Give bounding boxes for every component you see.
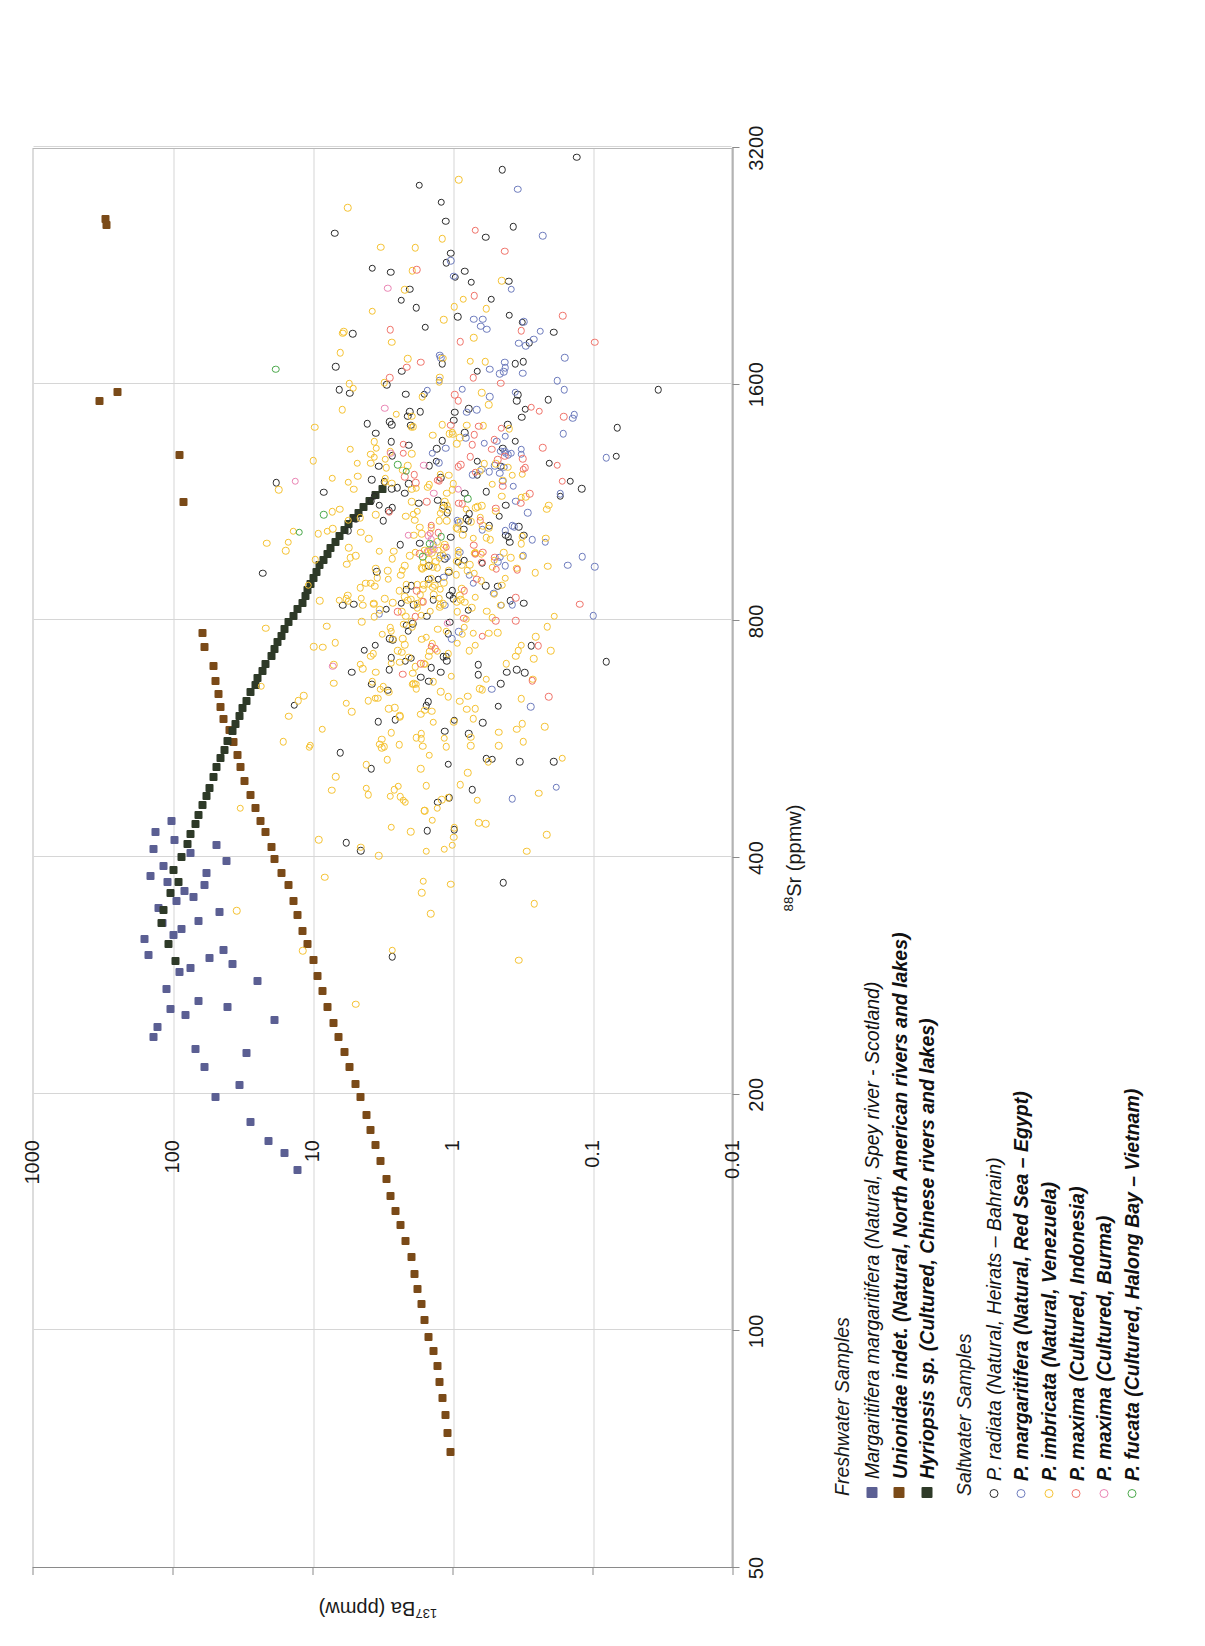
data-point — [517, 327, 525, 335]
data-point — [544, 502, 552, 510]
data-point — [407, 498, 415, 506]
data-point — [549, 329, 557, 337]
data-point — [294, 697, 302, 705]
data-point — [236, 805, 244, 813]
data-point — [403, 355, 411, 363]
data-point — [336, 349, 344, 357]
data-point — [346, 446, 354, 454]
legend-item-label: P. radiata (Natural, Heirats – Bahrain) — [982, 1157, 1005, 1481]
filled-square-marker-icon — [866, 1487, 877, 1498]
data-point — [416, 408, 424, 416]
legend-item[interactable]: Unionidae indet. (Natural, North America… — [888, 148, 911, 1498]
data-point — [140, 935, 148, 943]
data-point — [509, 483, 517, 491]
data-point — [356, 514, 364, 522]
data-point — [417, 660, 425, 668]
data-point — [339, 328, 347, 336]
data-point — [450, 391, 458, 399]
data-point — [512, 594, 520, 602]
data-point — [198, 801, 206, 809]
data-point — [417, 889, 425, 897]
data-point — [170, 836, 178, 844]
data-point — [232, 907, 240, 915]
data-point — [440, 846, 448, 854]
data-point — [388, 599, 396, 607]
legend-item[interactable]: P. maxima (Cultured, Burma) — [1092, 148, 1115, 1498]
legend-item[interactable]: P. imbricata (Natural, Venezuela) — [1037, 148, 1060, 1498]
x-axis-tick-label: 400 — [744, 841, 767, 875]
data-point — [358, 665, 366, 673]
data-point — [530, 335, 538, 343]
data-point — [144, 951, 152, 959]
data-point — [442, 543, 450, 551]
data-point — [174, 878, 182, 886]
data-point — [175, 451, 183, 459]
x-axis-tick — [732, 147, 739, 148]
data-point — [490, 436, 498, 444]
data-point — [547, 647, 555, 655]
data-point — [149, 1033, 157, 1041]
data-point — [422, 633, 430, 641]
data-point — [270, 1016, 278, 1024]
data-point — [498, 166, 506, 174]
figure-canvas: 501002004008001600320010001001010.10.01 … — [0, 0, 1205, 1646]
data-point — [379, 517, 387, 525]
data-point — [331, 229, 339, 237]
data-point — [298, 927, 306, 935]
data-point — [407, 412, 415, 420]
data-point — [385, 418, 393, 426]
data-point — [274, 486, 282, 494]
data-point — [349, 330, 357, 338]
data-point — [200, 643, 208, 651]
data-point — [415, 181, 423, 189]
data-point — [558, 755, 566, 763]
data-point — [463, 567, 471, 575]
x-axis-tick-label: 50 — [744, 1557, 767, 1580]
data-point — [284, 539, 292, 547]
legend-item[interactable]: P. margaritifera (Natural, Red Sea – Egy… — [1009, 148, 1032, 1498]
data-point — [358, 602, 366, 610]
open-circle-marker-icon — [1016, 1489, 1025, 1498]
y-gridline — [593, 149, 594, 1567]
data-point — [264, 1137, 272, 1145]
data-point — [329, 663, 337, 671]
data-point — [527, 404, 535, 412]
legend-item[interactable]: Hyriopsis sp. (Cultured, Chinese rivers … — [915, 148, 938, 1498]
data-point — [369, 650, 377, 658]
x-axis-tick — [732, 620, 739, 621]
data-point — [328, 525, 336, 533]
data-point — [437, 199, 445, 207]
data-point — [495, 742, 503, 750]
data-point — [441, 1411, 449, 1419]
data-point — [482, 820, 490, 828]
data-point — [373, 574, 381, 582]
data-point — [497, 492, 505, 500]
legend-item[interactable]: Margaritifera margaritifera (Natural, Sp… — [860, 148, 883, 1498]
data-point — [267, 843, 275, 851]
data-point — [566, 477, 574, 485]
y-axis-tick-label: 0.1 — [581, 1140, 604, 1168]
data-point — [517, 499, 525, 507]
data-point — [402, 467, 410, 475]
data-point — [351, 1080, 359, 1088]
data-point — [450, 824, 458, 832]
data-point — [514, 957, 522, 965]
filled-square-marker-icon — [893, 1487, 904, 1498]
data-point — [460, 587, 468, 595]
data-point — [384, 705, 392, 713]
legend-item[interactable]: P. fucata (Cultured, Halong Bay – Vietna… — [1120, 148, 1143, 1498]
data-point — [384, 567, 392, 575]
data-point — [388, 555, 396, 563]
data-point — [486, 393, 494, 401]
legend-item[interactable]: P. maxima (Cultured, Indonesia) — [1065, 148, 1088, 1498]
data-point — [441, 218, 449, 226]
data-point — [520, 669, 528, 677]
data-point — [191, 820, 199, 828]
data-point — [181, 1011, 189, 1019]
legend-item[interactable]: P. radiata (Natural, Heirats – Bahrain) — [982, 148, 1005, 1498]
x-axis-tick — [732, 1330, 739, 1331]
data-point — [242, 1049, 250, 1057]
data-point — [323, 1003, 331, 1011]
legend-item-label: Hyriopsis sp. (Cultured, Chinese rivers … — [915, 1018, 938, 1479]
data-point — [435, 1378, 443, 1386]
